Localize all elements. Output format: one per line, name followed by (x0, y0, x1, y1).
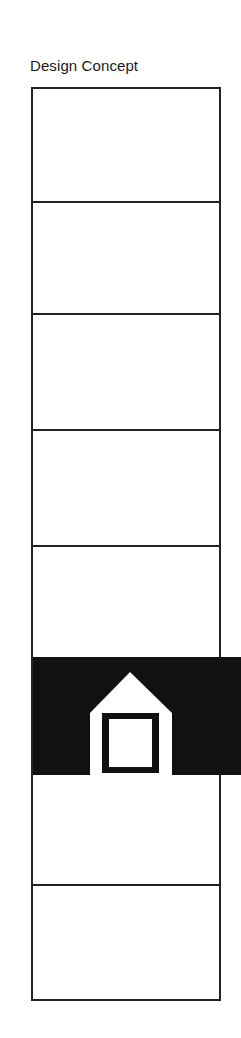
house-icon (0, 0, 241, 1038)
